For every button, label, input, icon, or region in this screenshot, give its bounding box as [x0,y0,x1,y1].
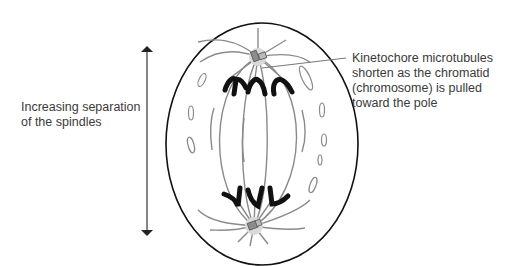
kinetochore-label-line-4: toward the pole [352,96,493,111]
kinetochore-label-line-2: shorten as the chromatid [352,66,493,81]
separation-label-line-1: Increasing separation [21,100,141,115]
separation-label: Increasing separation of the spindles [21,100,141,130]
separation-arrow [141,46,153,236]
top-centrosome [249,48,267,66]
kinetochore-label-line-3: (chromosome) is pulled [352,81,493,96]
mitosis-anaphase-diagram [0,0,514,266]
kinetochore-label-line-1: Kinetochore microtubules [352,51,493,66]
separation-label-line-2: of the spindles [21,115,141,130]
chromosomes-top [225,78,292,94]
bottom-centrosome [245,217,263,235]
kinetochore-label: Kinetochore microtubules shorten as the … [352,51,493,111]
